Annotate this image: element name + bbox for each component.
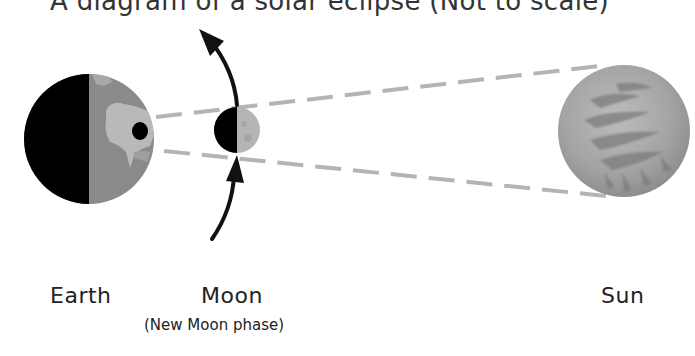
earth-icon [20, 70, 156, 210]
sun-label: Sun [601, 283, 644, 308]
sun-icon [558, 65, 690, 197]
umbra-spot [132, 122, 148, 140]
orbit-arrow-upper [199, 29, 237, 105]
moon-label: Moon [201, 283, 263, 308]
eclipse-diagram: A diagram of a solar eclipse (Not to sca… [0, 0, 695, 356]
moon-phase-note: (New Moon phase) [144, 316, 284, 334]
upper-cone-line [156, 66, 600, 117]
earth-label: Earth [50, 283, 112, 308]
moon-icon [210, 105, 260, 155]
orbit-arrow-lower [212, 155, 244, 239]
